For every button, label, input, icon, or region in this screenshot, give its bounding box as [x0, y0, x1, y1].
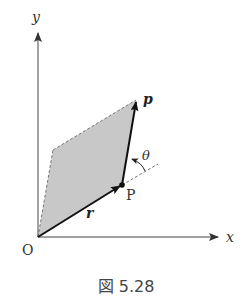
point-P-marker — [119, 182, 125, 188]
dashed-extension-r — [122, 164, 158, 185]
origin-label: O — [22, 242, 33, 258]
x-axis-label: x — [226, 229, 234, 245]
vector-p-label: p — [143, 91, 153, 107]
figure-caption: 図 5.28 — [98, 277, 155, 296]
point-P-label: P — [126, 187, 135, 203]
vector-r-label: r — [86, 205, 95, 221]
y-axis-label: y — [31, 9, 41, 25]
angle-theta-label: θ — [142, 148, 150, 163]
figure-canvas: y x O P r p θ 図 5.28 — [0, 0, 252, 303]
